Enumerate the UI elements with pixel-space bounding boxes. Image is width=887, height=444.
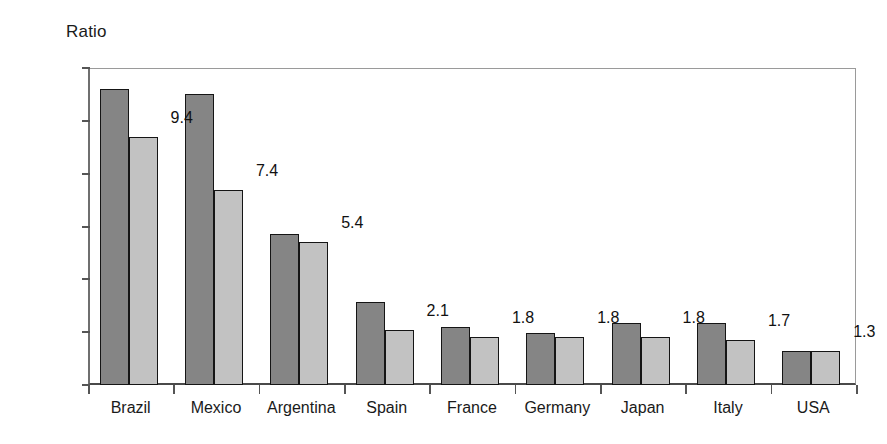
x-axis-category-label: Mexico [173,399,258,417]
x-tick-mark [771,385,773,394]
bar [811,351,840,385]
x-tick-mark [600,385,602,394]
bar-data-label: 1.8 [503,309,543,327]
y-tick-mark [82,331,90,333]
bar-data-label: 2.1 [418,302,458,320]
bar [129,137,158,385]
x-axis-category-label: France [429,399,514,417]
bar [641,337,670,385]
bar [470,337,499,385]
bar [782,351,811,385]
bar-data-label: 1.3 [844,323,884,341]
bar [612,323,641,385]
y-tick-mark [82,226,90,228]
bar [100,89,129,385]
bar [214,190,243,385]
x-axis-category-label: Germany [515,399,600,417]
x-axis-category-label: Argentina [259,399,344,417]
bar-data-label: 5.4 [332,214,372,232]
bar-chart: Ratio 12.010.08.06.04.02.0- BrazilMexico… [0,0,887,444]
y-tick-mark [82,173,90,175]
x-tick-mark [88,385,90,394]
bar-data-label: 1.7 [759,312,799,330]
bar [441,327,470,385]
y-tick-mark [82,120,90,122]
x-tick-mark [259,385,261,394]
bar [697,323,726,385]
y-axis-title: Ratio [66,22,107,42]
bar-data-label: 9.4 [162,109,202,127]
x-tick-mark [344,385,346,394]
bar [185,94,214,385]
x-tick-mark [429,385,431,394]
bar [526,333,555,385]
bar [385,330,414,385]
x-tick-mark [515,385,517,394]
x-tick-mark [685,385,687,394]
y-tick-mark [82,67,90,69]
x-axis-category-label: Japan [600,399,685,417]
x-axis-category-label: Brazil [88,399,173,417]
bar-data-label: 1.8 [674,309,714,327]
bar [555,337,584,385]
bar [726,340,755,385]
bar-data-label: 1.8 [588,309,628,327]
bar-data-label: 7.4 [247,162,287,180]
x-axis-category-label: USA [771,399,856,417]
bar [270,234,299,385]
x-tick-mark [856,385,858,394]
x-axis-category-label: Italy [685,399,770,417]
bar [299,242,328,385]
x-axis-category-label: Spain [344,399,429,417]
y-tick-mark [82,278,90,280]
bar [356,302,385,385]
x-tick-mark [173,385,175,394]
